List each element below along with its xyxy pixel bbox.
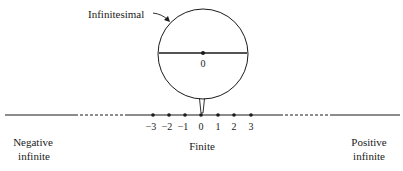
magnified-zero-label: 0 [201,58,206,69]
positive-infinite-label-line2: infinite [353,150,385,162]
tick-label: −3 [146,121,157,132]
finite-label: Finite [189,140,215,152]
tick-label: −1 [178,121,189,132]
tick-label: 2 [232,121,237,132]
tick-label: 3 [249,121,254,132]
tick-label: 0 [199,121,204,132]
negative-infinite-label-line2: infinite [18,150,50,162]
tick-labels: −3 −2 −1 0 1 2 3 [146,121,254,132]
tick-label: −2 [162,121,173,132]
positive-infinite-label-line1: Positive [351,136,387,148]
infinitesimal-label: Infinitesimal [88,8,144,20]
tick-label: 1 [216,121,221,132]
negative-infinite-label-line1: Negative [13,136,53,148]
magnifier-stem [200,99,205,114]
magnified-zero-dot [201,51,205,55]
hyperreal-diagram: −3 −2 −1 0 1 2 3 0 Infinitesimal Negativ… [0,0,403,171]
